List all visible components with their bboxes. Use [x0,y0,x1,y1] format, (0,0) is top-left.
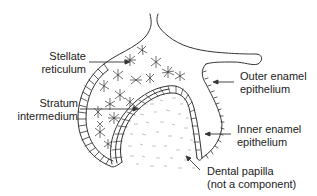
label-stellate-reticulum-line2: reticulum [30,63,86,76]
label-stellate-reticulum: Stellate reticulum [30,50,86,76]
label-inner-enamel-line2: epithelium [237,136,301,149]
outer-epithelium-cells [78,64,109,164]
inner-enamel-arrowhead [205,132,210,136]
cervical-loop-right [197,158,202,160]
inner-epithelium-outer-edge [111,86,203,164]
label-stratum-intermedium: Stratum intermedium [8,97,78,123]
label-inner-enamel-line1: Inner enamel [237,123,301,136]
label-stellate-reticulum-line1: Stellate [30,50,86,63]
label-dental-papilla-line1: Dental papilla [207,165,296,178]
label-stratum-intermedium-line1: Stratum [8,97,78,110]
outer-epithelium-outer-edge [78,64,110,166]
label-inner-enamel-epithelium: Inner enamel epithelium [237,123,301,149]
label-outer-enamel-epithelium: Outer enamel epithelium [240,70,307,96]
label-dental-papilla: Dental papilla (not a component) [207,165,296,191]
label-stratum-intermedium-line2: intermedium [8,110,78,123]
dental-lamina-right [157,14,262,65]
dental-lamina-left [104,14,151,64]
stellate-reticulum-cells [94,45,185,149]
label-outer-enamel-line2: epithelium [240,83,307,96]
label-outer-enamel-line1: Outer enamel [240,70,307,83]
outer-epithelium-right [202,64,222,158]
label-dental-papilla-line2: (not a component) [207,178,296,191]
outer-enamel-arrowhead [213,80,218,84]
